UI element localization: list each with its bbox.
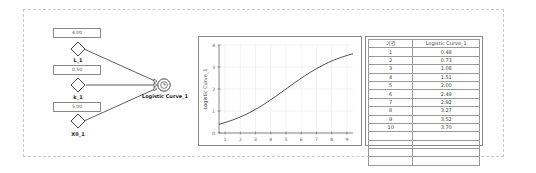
table-row [369,132,480,140]
data-table: 기간 Logistic Curve_1 10.4820.7331.0841.51… [368,39,480,166]
cell-value: 1.51 [413,73,480,81]
cell-period [369,149,413,157]
svg-text:0: 0 [212,131,215,136]
cell-value [413,157,480,165]
diamond-node-icon [71,42,85,128]
param-label-l: L_1 [58,57,98,63]
cell-period: 6 [369,90,413,98]
svg-text:4: 4 [269,137,272,142]
table-row: 62.49 [369,90,480,98]
cell-period: 4 [369,73,413,81]
cell-period: 9 [369,115,413,123]
table-row: 83.27 [369,107,480,115]
svg-text:1: 1 [212,109,215,114]
table-row [369,157,480,165]
cell-period: 7 [369,98,413,106]
table-row: 93.52 [369,115,480,123]
cell-value: 3.70 [413,123,480,131]
line-chart: 12345678901234Logistic Curve_1 [199,37,361,145]
data-table-panel: 기간 Logistic Curve_1 10.4820.7331.0841.51… [365,36,483,146]
svg-text:5: 5 [285,137,288,142]
svg-text:2: 2 [239,137,242,142]
param-label-x0: X0_1 [58,131,98,137]
svg-text:8: 8 [330,137,333,142]
cell-period: 3 [369,65,413,73]
cell-value [413,132,480,140]
cell-period [369,140,413,148]
svg-text:4: 4 [212,43,215,48]
svg-text:2: 2 [212,87,215,92]
cell-value [413,140,480,148]
cell-value: 3.52 [413,115,480,123]
table-row: 103.70 [369,123,480,131]
diamond-node-k-icon [71,78,85,92]
svg-text:6: 6 [300,137,303,142]
diamond-node-x0-icon [71,114,85,128]
table-header-row: 기간 Logistic Curve_1 [369,40,480,48]
svg-text:1: 1 [224,137,227,142]
cell-period: 5 [369,81,413,89]
cell-period: 10 [369,123,413,131]
table-row: 52.00 [369,81,480,89]
cell-value: 0.73 [413,56,480,64]
cell-value: 2.49 [413,90,480,98]
cell-period [369,132,413,140]
clock-icon [158,79,170,91]
table-row: 10.48 [369,48,480,56]
svg-text:3: 3 [254,137,257,142]
cell-value: 3.27 [413,107,480,115]
svg-text:Logistic Curve_1: Logistic Curve_1 [202,68,209,109]
cell-period: 2 [369,56,413,64]
table-row: 20.73 [369,56,480,64]
table-row: 41.51 [369,73,480,81]
cell-value: 1.08 [413,65,480,73]
cell-value: 2.00 [413,81,480,89]
svg-text:9: 9 [345,137,348,142]
cell-period: 8 [369,107,413,115]
line-chart-panel: 12345678901234Logistic Curve_1 [198,36,362,146]
table-row [369,140,480,148]
cell-value: 0.48 [413,48,480,56]
table-row [369,149,480,157]
cell-period [369,157,413,165]
table-row: 72.92 [369,98,480,106]
cell-value: 2.92 [413,98,480,106]
column-header-logistic-curve: Logistic Curve_1 [413,40,480,48]
table-row: 31.08 [369,65,480,73]
output-node-label: Logistic Curve_1 [139,93,191,99]
column-header-period: 기간 [369,40,413,48]
cell-value [413,149,480,157]
svg-text:7: 7 [315,137,318,142]
param-label-k: k_1 [58,94,98,100]
diamond-node-l-icon [71,42,85,56]
cell-period: 1 [369,48,413,56]
svg-text:3: 3 [212,65,215,70]
